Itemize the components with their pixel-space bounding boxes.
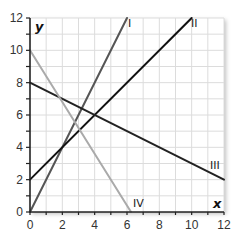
y-tick-label: 10	[10, 43, 24, 57]
line-label-III: III	[210, 159, 220, 172]
x-tick-label: 8	[156, 218, 163, 232]
y-tick-labels: 024681012	[10, 11, 24, 219]
x-tick-label: 4	[91, 218, 98, 232]
y-tick-label: 0	[16, 205, 23, 219]
x-tick-label: 12	[217, 218, 231, 232]
y-tick-label: 6	[16, 108, 23, 122]
y-axis-label: y	[35, 19, 44, 34]
x-tick-label: 6	[124, 218, 131, 232]
line-chart: 024681012 024681012 y x I II III IV	[0, 0, 233, 245]
x-tick-label: 2	[59, 218, 66, 232]
x-tick-label: 10	[185, 218, 199, 232]
y-tick-label: 2	[16, 173, 23, 187]
y-tick-label: 12	[10, 11, 24, 25]
x-axis-label: x	[212, 196, 222, 211]
y-tick-label: 4	[16, 140, 23, 154]
x-tick-label: 0	[27, 218, 34, 232]
y-tick-label: 8	[16, 76, 23, 90]
x-tick-labels: 024681012	[27, 218, 231, 232]
line-label-IV: IV	[133, 197, 144, 210]
line-label-II: II	[191, 17, 198, 30]
line-label-I: I	[128, 17, 131, 30]
